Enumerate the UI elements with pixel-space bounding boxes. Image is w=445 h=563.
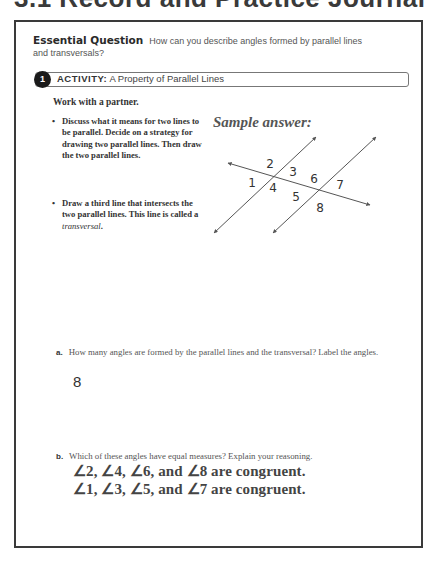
angle-label-1: 1 bbox=[248, 176, 256, 190]
parallel-lines-diagram: 1 2 3 4 5 6 7 8 bbox=[200, 125, 390, 245]
angle-label-5: 5 bbox=[292, 190, 300, 204]
page-title: 3.1 Record and Practice Journal bbox=[14, 0, 425, 14]
question-a-text: How many angles are formed by the parall… bbox=[69, 347, 379, 357]
activity-bullet-2: Draw a third line that intersects the tw… bbox=[62, 198, 202, 232]
question-a-label: a. bbox=[56, 348, 63, 357]
answer-a: 8 bbox=[73, 373, 81, 390]
activity-instruction: Work with a partner. bbox=[53, 97, 139, 107]
activity-title: ACTIVITY: A Property of Parallel Lines bbox=[57, 73, 224, 84]
bullet-2-period: . bbox=[101, 221, 103, 231]
essential-question: Essential QuestionHow can you describe a… bbox=[33, 34, 363, 59]
question-b-text: Which of these angles have equal measure… bbox=[69, 451, 312, 461]
question-a: a.How many angles are formed by the para… bbox=[56, 347, 406, 358]
activity-bullet-2-text: Draw a third line that intersects the tw… bbox=[62, 198, 198, 219]
question-b-label: b. bbox=[56, 452, 63, 461]
angle-label-3: 3 bbox=[289, 165, 297, 179]
transversal-term: transversal bbox=[62, 221, 101, 231]
answer-b-line-2: ∠1, ∠3, ∠5, and ∠7 are congruent. bbox=[73, 480, 306, 498]
angle-label-7: 7 bbox=[336, 178, 344, 192]
angle-label-6: 6 bbox=[310, 172, 318, 186]
activity-bullet-1: Discuss what it means for two lines to b… bbox=[62, 116, 202, 161]
angle-label-8: 8 bbox=[316, 201, 324, 215]
activity-number-badge: 1 bbox=[34, 71, 51, 88]
activity-keyword: ACTIVITY: bbox=[57, 73, 107, 84]
question-b: b.Which of these angles have equal measu… bbox=[56, 451, 406, 462]
essential-question-label: Essential Question bbox=[33, 34, 143, 46]
parallel-line-2 bbox=[273, 137, 376, 233]
answer-b-line-1: ∠2, ∠4, ∠6, and ∠8 are congruent. bbox=[73, 462, 306, 480]
angle-label-2: 2 bbox=[266, 157, 274, 171]
activity-title-text: A Property of Parallel Lines bbox=[109, 73, 224, 84]
angle-label-4: 4 bbox=[269, 181, 277, 195]
